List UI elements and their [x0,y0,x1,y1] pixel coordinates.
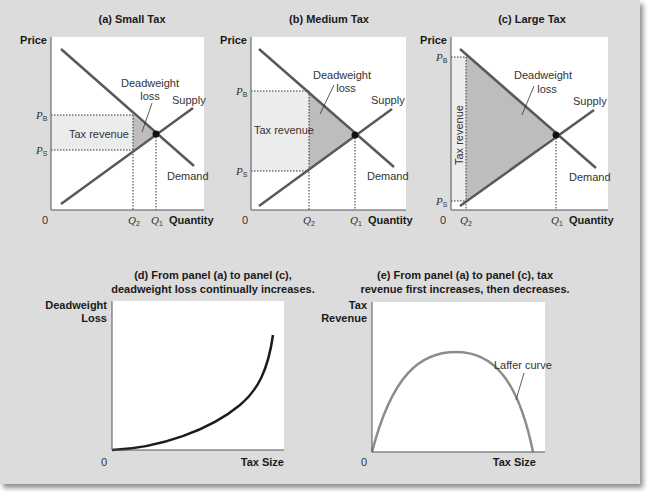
panel-b-dwl-label-1: Deadweight [313,69,371,81]
panel-c-q1-label: Q1 [551,214,563,227]
panel-d-deadweight-loss: (d) From panel (a) to panel (c), deadwei… [45,269,315,468]
panel-a-title: (a) Small Tax [98,13,166,25]
panel-b-tax-revenue-label: Tax revenue [254,124,314,136]
panel-b-equilibrium-point [352,132,359,139]
panel-e-y-label-line-2: Revenue [321,312,367,324]
panel-a-supply-label: Supply [172,94,206,106]
panel-a-demand-label: Demand [167,170,209,182]
panel-c-y-label: Price [420,34,447,46]
panel-d-y-label-line-2: Loss [81,312,107,324]
panel-e-tax-revenue: (e) From panel (a) to panel (c), tax rev… [321,269,569,468]
panel-c-pb-label: PB [435,51,448,64]
panel-a-dwl-label-1: Deadweight [121,77,179,89]
panel-c-dwl-label-2: loss [537,83,557,95]
figure: (a) Small Tax Price 0 Quantity PB PS Q2 … [0,0,648,492]
panel-c-supply-label: Supply [573,95,607,107]
panel-e-origin: 0 [361,456,367,468]
panel-a-origin: 0 [42,214,48,226]
panel-d-title-line-2: deadweight loss continually increases. [111,283,315,295]
panel-a-small-tax: (a) Small Tax Price 0 Quantity PB PS Q2 … [20,13,214,227]
panel-b-title: (b) Medium Tax [289,13,370,25]
panel-e-laffer-curve-label: Laffer curve [494,359,552,371]
panel-d-x-label: Tax Size [241,456,284,468]
panel-a-pb-label: PB [35,109,48,122]
panel-b-medium-tax: (b) Medium Tax Price 0 Quantity PB PS Q2… [220,13,413,227]
panel-a-y-label: Price [20,34,47,46]
panel-e-plot-area [372,302,545,452]
panel-e-title-line-2: revenue first increases, then decreases. [360,283,569,295]
panel-d-plot-area [112,301,284,450]
panel-c-origin: 0 [440,214,446,226]
panel-e-title-line-1: (e) From panel (a) to panel (c), tax [377,269,554,281]
panel-c-title: (c) Large Tax [498,13,567,25]
panel-c-q2-label: Q2 [460,214,472,227]
panel-b-q1-label: Q1 [350,214,362,227]
panel-a-x-label: Quantity [169,214,214,226]
panel-a-dwl-label-2: loss [140,90,160,102]
panel-b-ps-label: PS [235,165,248,178]
panel-b-demand-label: Demand [367,170,409,182]
panel-c-dwl-label-1: Deadweight [514,69,572,81]
panel-d-y-label-line-1: Deadweight [45,299,107,311]
panel-a-q1-label: Q1 [151,214,163,227]
panel-a-equilibrium-point [153,131,160,138]
panel-a-tax-revenue-label: Tax revenue [69,128,129,140]
panel-b-y-label: Price [220,34,247,46]
panel-b-pb-label: PB [235,85,248,98]
panel-b-origin: 0 [242,214,248,226]
panel-c-tax-revenue-label: Tax revenue [453,105,465,165]
panel-b-q2-label: Q2 [303,214,315,227]
panel-c-x-label: Quantity [569,214,614,226]
panel-b-dwl-label-2: loss [336,82,356,94]
panel-b-supply-label: Supply [371,94,405,106]
panel-c-demand-label: Demand [569,171,611,183]
panel-a-ps-label: PS [35,144,48,157]
panel-d-origin: 0 [101,456,107,468]
panel-c-large-tax: (c) Large Tax Price 0 Quantity PB PS Q2 … [420,13,614,227]
panel-d-title-line-1: (d) From panel (a) to panel (c), [134,269,292,281]
panel-c-ps-label: PS [435,195,448,208]
panel-a-q2-label: Q2 [128,214,140,227]
panel-c-equilibrium-point [553,132,560,139]
panel-e-x-label: Tax Size [493,456,536,468]
panel-e-y-label-line-1: Tax [349,299,368,311]
panel-b-x-label: Quantity [368,214,413,226]
